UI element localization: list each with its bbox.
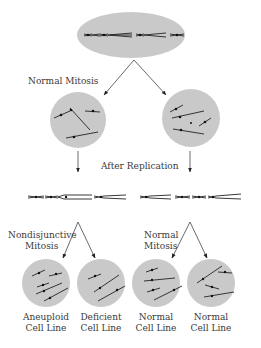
arrow-nondisjunction-right bbox=[78, 222, 95, 258]
cell-normal-2 bbox=[187, 259, 235, 307]
label-normal-2: Normal bbox=[194, 312, 228, 322]
label-normal-1: Normal bbox=[139, 312, 173, 322]
label-after-replication: After Replication bbox=[100, 161, 179, 171]
daughter-cell-left bbox=[50, 92, 106, 148]
arrow-left-daughter bbox=[104, 60, 134, 95]
label-nondisjunctive-mitosis: Mitosis bbox=[25, 241, 59, 251]
cell-normal-1 bbox=[132, 259, 182, 307]
label-normal-mitosis: Mitosis bbox=[144, 241, 178, 251]
label-deficient-cell-line: Cell Line bbox=[81, 323, 122, 333]
replicated-chromosomes-right bbox=[140, 194, 241, 199]
cell-aneuploid bbox=[22, 259, 70, 307]
cell-deficient bbox=[77, 259, 125, 307]
arrow-nondisjunction-left bbox=[63, 222, 78, 258]
cell-line-labels: Aneuploid Cell Line Deficient Cell Line … bbox=[22, 312, 231, 333]
label-aneuploid: Aneuploid bbox=[22, 312, 69, 322]
arrow-normal-left bbox=[172, 222, 190, 258]
arrow-right-daughter bbox=[134, 60, 166, 95]
label-aneuploid-cell-line: Cell Line bbox=[26, 323, 67, 333]
label-normal-2-cell-line: Cell Line bbox=[191, 323, 232, 333]
replicated-chromosomes-left bbox=[28, 195, 126, 199]
parent-cell bbox=[77, 12, 185, 58]
label-normal-1-cell-line: Cell Line bbox=[136, 323, 177, 333]
label-normal: Normal bbox=[144, 230, 178, 240]
label-normal-mitosis-top: Normal Mitosis bbox=[28, 76, 99, 86]
daughter-cell-right bbox=[162, 89, 220, 147]
label-nondisjunctive: Nondisjunctive bbox=[8, 230, 77, 240]
arrow-normal-right bbox=[190, 222, 207, 258]
label-deficient: Deficient bbox=[80, 312, 122, 322]
mitosis-diagram: Normal Mitosis After Replication N bbox=[0, 0, 261, 348]
